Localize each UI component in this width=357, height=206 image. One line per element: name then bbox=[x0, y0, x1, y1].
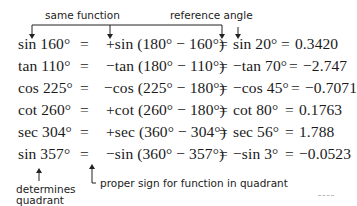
label-determines: determines bbox=[16, 184, 76, 195]
equals: = bbox=[80, 58, 106, 74]
equals: = bbox=[80, 146, 106, 162]
value: −0.0523 bbox=[299, 146, 351, 162]
reference: cot 80° bbox=[233, 102, 285, 118]
lhs: sec 304° bbox=[18, 124, 80, 140]
expression: −sin (360° − 357°) bbox=[106, 146, 219, 162]
reference: −tan 70° bbox=[233, 58, 289, 74]
equals: = bbox=[80, 102, 106, 118]
label-same-function: same function bbox=[45, 10, 120, 21]
equals: = bbox=[219, 36, 233, 52]
equation-row-2: tan 110°=−tan (180° − 110°)=−tan 70°=−2.… bbox=[18, 58, 347, 74]
reference: −cos 45° bbox=[233, 80, 291, 96]
equals: = bbox=[219, 58, 233, 74]
lhs: tan 110° bbox=[18, 58, 80, 74]
lhs: sin 160° bbox=[18, 36, 80, 52]
equation-row-1: sin 160°=+sin (180° − 160°)=sin 20°=0.34… bbox=[18, 36, 338, 52]
reference: sec 56° bbox=[233, 124, 285, 140]
value: 0.1763 bbox=[299, 102, 342, 118]
expression: −tan (180° − 110°) bbox=[106, 58, 219, 74]
equals: = bbox=[285, 146, 299, 162]
expression: +cot (260° − 180°) bbox=[106, 102, 219, 118]
value: −0.7071 bbox=[305, 80, 357, 96]
label-quadrant: quadrant bbox=[16, 195, 64, 206]
equals: = bbox=[281, 36, 295, 52]
equals: = bbox=[219, 124, 233, 140]
equals: = bbox=[80, 124, 106, 140]
label-reference-angle: reference angle bbox=[170, 10, 253, 21]
value: −2.747 bbox=[303, 58, 347, 74]
equals: = bbox=[219, 102, 233, 118]
equation-row-5: sec 304°=+sec (360° − 304°)=sec 56°=1.78… bbox=[18, 124, 334, 140]
equals: = bbox=[291, 80, 305, 96]
decorative-dashes bbox=[318, 195, 334, 196]
expression: +sin (180° − 160°) bbox=[106, 36, 219, 52]
equals: = bbox=[219, 146, 233, 162]
label-proper-sign: proper sign for function in quadrant bbox=[100, 178, 288, 189]
equals: = bbox=[289, 58, 303, 74]
equation-row-3: cos 225°=−cos (225° − 180°)=−cos 45°=−0.… bbox=[18, 80, 357, 96]
lhs: cos 225° bbox=[18, 80, 80, 96]
reference: −sin 3° bbox=[233, 146, 285, 162]
lhs: sin 357° bbox=[18, 146, 80, 162]
equation-row-4: cot 260°=+cot (260° − 180°)=cot 80°=0.17… bbox=[18, 102, 342, 118]
expression: −cos (225° − 180°) bbox=[104, 80, 219, 96]
equals: = bbox=[285, 124, 299, 140]
equals: = bbox=[80, 80, 104, 96]
expression: +sec (360° − 304°) bbox=[106, 124, 219, 140]
reference: sin 20° bbox=[233, 36, 281, 52]
equals: = bbox=[80, 36, 106, 52]
equation-row-6: sin 357°=−sin (360° − 357°)=−sin 3°=−0.0… bbox=[18, 146, 351, 162]
value: 0.3420 bbox=[295, 36, 338, 52]
lhs: cot 260° bbox=[18, 102, 80, 118]
equals: = bbox=[285, 102, 299, 118]
equals: = bbox=[219, 80, 233, 96]
value: 1.788 bbox=[299, 124, 334, 140]
